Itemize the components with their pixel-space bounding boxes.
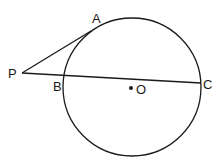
diagram-canvas: P A B C O	[0, 0, 220, 164]
point-label-o: O	[136, 82, 146, 97]
point-label-c: C	[203, 77, 212, 92]
point-label-a: A	[92, 11, 101, 26]
geometry-diagram: P A B C O	[0, 0, 220, 164]
tangent-segment-pa	[22, 31, 91, 73]
center-point-o	[129, 86, 133, 90]
point-label-p: P	[8, 66, 17, 81]
point-label-b: B	[53, 79, 62, 94]
secant-segment-pc	[22, 73, 201, 83]
